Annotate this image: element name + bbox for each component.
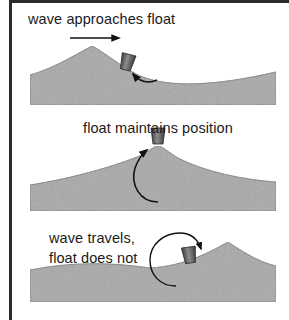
label-float-maintains-position: float maintains position xyxy=(83,120,233,137)
label-wave-travels: wave travels, float does not xyxy=(49,228,137,268)
label-line-1: wave travels, xyxy=(49,228,137,248)
float-icon xyxy=(181,246,197,264)
panel-2-float-maintains-position xyxy=(30,128,276,211)
water-wave-1 xyxy=(30,46,276,105)
label-wave-approaches-float: wave approaches float xyxy=(28,11,175,28)
wave-diagram xyxy=(0,0,289,320)
panel-1-wave-approaches xyxy=(30,38,276,105)
float-icon xyxy=(118,53,135,72)
label-line-2: float does not xyxy=(49,248,137,268)
